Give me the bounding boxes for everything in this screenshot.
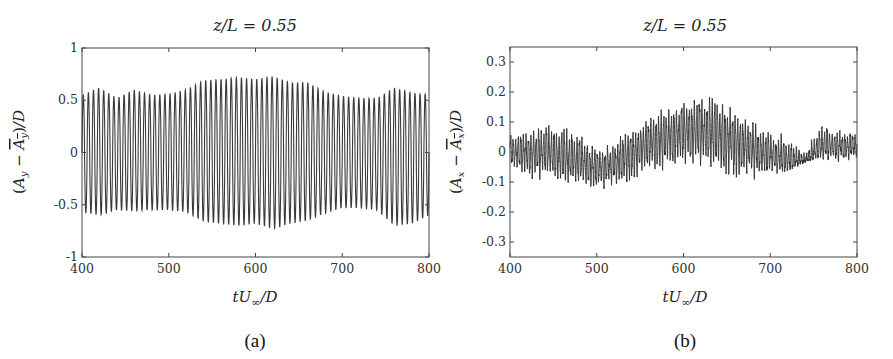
y-tick-label: 0: [498, 144, 506, 159]
y-tick-label: 1: [70, 40, 78, 55]
panel-b-ylabel: (Ax − Ax)/D: [447, 110, 466, 194]
x-tick-label: 500: [157, 261, 181, 276]
panel-a-title: z/L = 0.55: [212, 16, 297, 35]
x-tick-label: 700: [758, 261, 782, 276]
panel-b-plot-area: [510, 97, 857, 189]
panel-a-ylabel: (Ay − Ay)/D: [10, 110, 29, 194]
y-tick-label: -1: [66, 249, 78, 264]
panel-b-series-line: [510, 97, 857, 189]
x-tick-label: 600: [672, 261, 696, 276]
y-tick-label: 0.2: [486, 84, 506, 99]
panel-b-xlabel: tU∞/D: [663, 288, 708, 309]
panel-a-plot-area: [82, 76, 429, 228]
figure-canvas: z/L = 0.55 400500600700800-1-0.500.51 tU…: [0, 0, 893, 359]
y-tick-label: 0.1: [486, 114, 506, 129]
panel-a: z/L = 0.55 400500600700800-1-0.500.51 tU…: [10, 16, 441, 352]
x-tick-label: 800: [845, 261, 869, 276]
panel-b-title: z/L = 0.55: [642, 16, 727, 35]
y-tick-label: 0: [70, 145, 78, 160]
panel-b-caption: (b): [674, 330, 696, 352]
panel-a-series-line: [82, 76, 429, 228]
y-tick-label: 0.5: [58, 92, 78, 107]
panel-b: z/L = 0.55 400500600700800-0.3-0.2-0.100…: [447, 16, 869, 352]
x-tick-label: 500: [585, 261, 609, 276]
y-tick-label: -0.2: [482, 204, 506, 219]
y-tick-label: -0.3: [482, 234, 506, 249]
y-tick-label: -0.5: [54, 197, 78, 212]
y-tick-label: 0.3: [486, 54, 506, 69]
x-tick-label: 800: [417, 261, 441, 276]
x-tick-label: 400: [498, 261, 522, 276]
panel-a-xlabel: tU∞/D: [233, 288, 278, 309]
panel-a-caption: (a): [244, 330, 265, 352]
x-tick-label: 600: [244, 261, 268, 276]
y-tick-label: -0.1: [482, 174, 506, 189]
x-tick-label: 700: [330, 261, 354, 276]
